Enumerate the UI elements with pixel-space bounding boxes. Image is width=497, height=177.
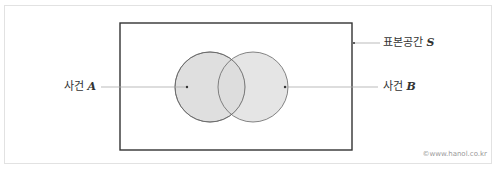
leader-dot-a xyxy=(186,86,188,88)
event-b-circle xyxy=(218,52,288,122)
credit-text: ©www.hanol.co.kr xyxy=(422,150,487,158)
sample-space-label: 표본공간 S xyxy=(383,37,434,49)
leader-dot-s xyxy=(353,42,355,44)
event-a-label: 사건 A xyxy=(64,81,96,93)
event-b-label: 사건 B xyxy=(383,81,416,93)
leader-dot-b xyxy=(284,86,286,88)
